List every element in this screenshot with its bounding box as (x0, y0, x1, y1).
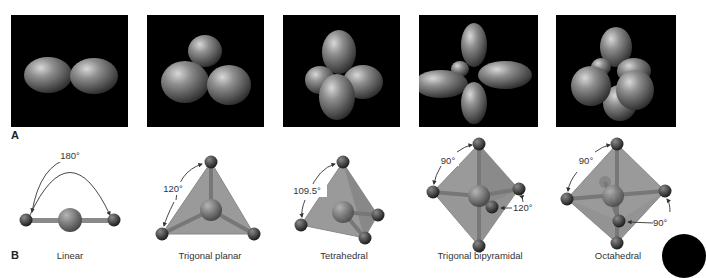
angle-label-90-axial: 90° (579, 155, 594, 166)
trigonal-planar-molecule-icon: 120° (148, 140, 268, 250)
label-trigonal-bipyramidal: Trigonal bipyramidal (410, 250, 550, 261)
geometry-tetrahedral: 109.5° (283, 140, 403, 250)
geometry-octahedral: 90° 90° (553, 140, 683, 250)
trigonal-bipyramidal-orbital-lobes-icon (419, 15, 538, 127)
linear-orbital-lobes-icon (11, 15, 128, 127)
label-tetrahedral: Tetrahedral (274, 250, 414, 261)
geometry-trigonal-bipyramidal: 90° 120° (415, 140, 545, 250)
orbital-panel-octahedral (556, 15, 676, 127)
angle-label-180: 180° (60, 150, 80, 161)
angle-label-120: 120° (513, 202, 533, 213)
label-trigonal-planar: Trigonal planar (140, 250, 280, 261)
trigonal-bipyramidal-molecule-icon: 90° 120° (415, 140, 545, 250)
tetrahedral-orbital-lobes-icon (283, 15, 400, 127)
black-circle-marker-icon (662, 234, 706, 278)
octahedral-molecule-icon: 90° 90° (553, 140, 683, 250)
angle-label-120: 120° (163, 183, 183, 194)
angle-label-90: 90° (441, 155, 456, 166)
orbital-panel-tetrahedral (283, 15, 400, 127)
geometry-trigonal-planar: 120° (148, 140, 268, 250)
angle-label-109-5: 109.5° (293, 185, 321, 196)
trigonal-planar-orbital-lobes-icon (147, 15, 264, 127)
octahedral-orbital-lobes-icon (556, 15, 676, 127)
angle-label-90-equatorial: 90° (653, 217, 668, 228)
orbital-panel-trigonal-bipyramidal (419, 15, 538, 127)
orbital-panel-trigonal-planar (147, 15, 264, 127)
label-linear: Linear (0, 250, 140, 261)
orbital-panel-linear (11, 15, 128, 127)
tetrahedral-molecule-icon: 109.5° (283, 140, 403, 250)
geometry-linear: 180° (10, 140, 130, 250)
linear-molecule-icon: 180° (10, 140, 130, 250)
